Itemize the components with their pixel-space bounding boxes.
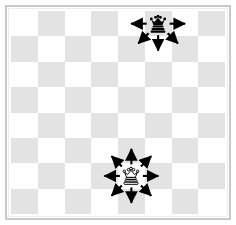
board-square[interactable] [38, 62, 65, 87]
board-square[interactable] [198, 138, 225, 163]
board-square[interactable] [118, 189, 145, 214]
board-square[interactable] [118, 36, 145, 61]
board-square[interactable] [11, 138, 38, 163]
board-square[interactable] [145, 87, 172, 112]
board-square[interactable] [172, 189, 199, 214]
board-square[interactable] [38, 87, 65, 112]
board-square[interactable] [65, 11, 92, 36]
board-square[interactable] [198, 36, 225, 61]
board-square[interactable] [65, 189, 92, 214]
board-square[interactable] [145, 163, 172, 188]
board-square[interactable] [11, 11, 38, 36]
board-square[interactable] [118, 113, 145, 138]
board-square[interactable] [91, 62, 118, 87]
chessboard [11, 11, 225, 214]
board-square[interactable] [65, 138, 92, 163]
black-queen[interactable] [145, 11, 172, 36]
board-square[interactable] [145, 138, 172, 163]
board-square[interactable] [145, 62, 172, 87]
board-square[interactable] [65, 62, 92, 87]
board-square[interactable] [11, 163, 38, 188]
board-square[interactable] [172, 11, 199, 36]
board-square[interactable] [11, 87, 38, 112]
board-square[interactable] [38, 36, 65, 61]
board-square[interactable] [38, 138, 65, 163]
board-square[interactable] [91, 138, 118, 163]
board-square[interactable] [65, 87, 92, 112]
board-square[interactable] [38, 163, 65, 188]
board-square[interactable] [118, 138, 145, 163]
board-square[interactable] [91, 11, 118, 36]
board-square[interactable] [11, 113, 38, 138]
board-square[interactable] [11, 36, 38, 61]
board-square[interactable] [38, 11, 65, 36]
board-square[interactable] [38, 113, 65, 138]
board-square[interactable] [91, 163, 118, 188]
board-square[interactable] [118, 87, 145, 112]
board-square[interactable] [172, 36, 199, 61]
board-square[interactable] [198, 113, 225, 138]
chess-diagram [0, 0, 236, 225]
board-square[interactable] [198, 189, 225, 214]
board-square[interactable] [198, 163, 225, 188]
board-square[interactable] [145, 36, 172, 61]
board-square[interactable] [65, 36, 92, 61]
board-square[interactable] [91, 36, 118, 61]
board-square[interactable] [65, 163, 92, 188]
board-square[interactable] [38, 189, 65, 214]
board-square[interactable] [91, 87, 118, 112]
board-square[interactable] [198, 11, 225, 36]
board-square[interactable] [118, 11, 145, 36]
board-square[interactable] [145, 113, 172, 138]
board-square[interactable] [172, 113, 199, 138]
white-queen[interactable] [118, 163, 145, 188]
board-square[interactable] [145, 189, 172, 214]
board-square[interactable] [172, 87, 199, 112]
board-square[interactable] [118, 163, 145, 188]
board-square[interactable] [91, 189, 118, 214]
board-square[interactable] [91, 113, 118, 138]
board-square[interactable] [198, 87, 225, 112]
board-square[interactable] [118, 62, 145, 87]
board-square[interactable] [172, 138, 199, 163]
board-square[interactable] [11, 62, 38, 87]
board-square[interactable] [172, 163, 199, 188]
board-square[interactable] [198, 62, 225, 87]
board-square[interactable] [145, 11, 172, 36]
board-square[interactable] [65, 113, 92, 138]
board-square[interactable] [172, 62, 199, 87]
board-square[interactable] [11, 189, 38, 214]
